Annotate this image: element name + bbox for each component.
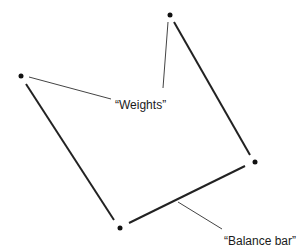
arm-left-to-bottom (26, 84, 114, 220)
leader-balance-bar (178, 202, 222, 229)
balance-bar-label: “Balance bar” (224, 234, 296, 248)
weight-dot-right (253, 160, 258, 165)
weight-dot-left (19, 74, 24, 79)
arm-top-to-right (174, 22, 250, 155)
leader-weights-top (163, 22, 168, 88)
leader-weights-left (29, 77, 111, 99)
weight-dot-bottom (118, 226, 123, 231)
balance-bar-line (129, 166, 245, 223)
weight-dot-top (168, 13, 173, 18)
weights-label: “Weights” (115, 98, 166, 112)
weights-balance-diagram (0, 0, 301, 251)
